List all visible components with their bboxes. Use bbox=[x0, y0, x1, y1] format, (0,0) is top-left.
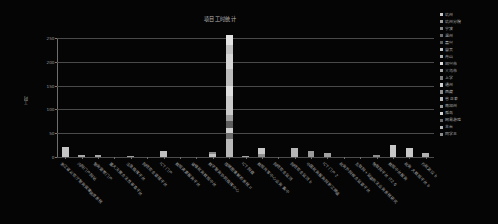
bar-column[interactable] bbox=[127, 156, 134, 157]
x-axis-tick-mark bbox=[180, 157, 181, 159]
bar-segment bbox=[373, 155, 380, 157]
x-axis-tick-mark bbox=[131, 157, 132, 159]
legend-item-label: 宁波 bbox=[445, 27, 453, 31]
legend-swatch-icon bbox=[440, 97, 443, 100]
legend-item[interactable]: 舟山 bbox=[440, 53, 498, 60]
bar-column[interactable] bbox=[78, 155, 85, 157]
y-axis-tick-mark bbox=[55, 157, 57, 158]
chart-legend: 杭州杭州分院宁波温州嘉兴自贡舟山绍兴市义乌市上学通州西藏省 正泰南加州孤岛网易游… bbox=[440, 11, 498, 138]
x-axis-tick-mark bbox=[393, 157, 394, 159]
legend-swatch-icon bbox=[440, 119, 443, 122]
legend-item[interactable]: 同学王 bbox=[440, 131, 498, 138]
x-axis-tick-mark bbox=[426, 157, 427, 159]
legend-item[interactable]: 嘉兴 bbox=[440, 39, 498, 46]
legend-item[interactable]: 绍兴市 bbox=[440, 60, 498, 67]
x-axis-tick-mark bbox=[213, 157, 214, 159]
legend-swatch-icon bbox=[440, 62, 443, 65]
legend-item[interactable]: 杭州分院 bbox=[440, 18, 498, 25]
bar-column[interactable] bbox=[242, 156, 249, 157]
legend-swatch-icon bbox=[440, 34, 443, 37]
bar-column[interactable] bbox=[373, 155, 380, 157]
legend-swatch-icon bbox=[440, 13, 443, 16]
legend-swatch-icon bbox=[440, 41, 443, 44]
legend-item-label: 同学王 bbox=[445, 132, 457, 136]
legend-swatch-icon bbox=[440, 90, 443, 93]
bar-column[interactable] bbox=[324, 153, 331, 157]
legend-swatch-icon bbox=[440, 133, 443, 136]
x-axis-tick-mark bbox=[82, 157, 83, 159]
legend-item-label: 上学 bbox=[445, 76, 453, 80]
y-axis-tick-label: 150 bbox=[47, 83, 55, 88]
bar-column[interactable] bbox=[308, 151, 315, 157]
bar-segment bbox=[324, 153, 331, 157]
bar-segment bbox=[242, 156, 249, 157]
x-axis-tick-mark bbox=[246, 157, 247, 159]
legend-swatch-icon bbox=[440, 20, 443, 23]
legend-item-label: 温州 bbox=[445, 34, 453, 38]
bar-column[interactable] bbox=[95, 155, 102, 157]
bar-segment bbox=[95, 155, 102, 157]
y-axis-tick-label: 250 bbox=[47, 36, 55, 41]
y-axis-tick-label: 50 bbox=[49, 131, 54, 136]
x-axis-tick-mark bbox=[295, 157, 296, 159]
legend-item-label: 嘉兴 bbox=[445, 41, 453, 45]
legend-item[interactable]: 宁波 bbox=[440, 25, 498, 32]
legend-item[interactable]: 通州 bbox=[440, 81, 498, 88]
bar-column[interactable] bbox=[422, 153, 429, 157]
bar-segment bbox=[226, 96, 233, 115]
y-axis-title: 工时 bbox=[24, 96, 30, 105]
bar-column[interactable] bbox=[390, 145, 397, 157]
legend-item-label: 绍兴市 bbox=[445, 62, 457, 66]
legend-item-label: 西藏 bbox=[445, 90, 453, 94]
legend-item[interactable]: 省 正泰 bbox=[440, 96, 498, 103]
legend-item-label: 孤岛 bbox=[445, 111, 453, 115]
bar-segment bbox=[226, 139, 233, 157]
legend-item[interactable]: 孤岛 bbox=[440, 110, 498, 117]
bar-segment bbox=[390, 145, 397, 157]
bar-column[interactable] bbox=[258, 148, 265, 157]
bar-column[interactable] bbox=[62, 147, 69, 157]
bar-segment bbox=[406, 148, 413, 157]
plot-area: 250200150100500 bbox=[57, 38, 434, 158]
bar-segment bbox=[422, 153, 429, 157]
x-axis-tick-mark bbox=[311, 157, 312, 159]
bar-segment bbox=[226, 86, 233, 96]
legend-item[interactable]: 网易游戏 bbox=[440, 117, 498, 124]
x-axis-tick-label: ICT 门户 bbox=[158, 160, 174, 176]
bar-layer bbox=[57, 38, 434, 157]
legend-item[interactable]: 丰台 bbox=[440, 124, 498, 131]
bar-segment bbox=[78, 155, 85, 157]
legend-item-label: 丰台 bbox=[445, 125, 453, 129]
x-axis-tick-mark bbox=[229, 157, 230, 159]
legend-item[interactable]: 自贡 bbox=[440, 46, 498, 53]
x-axis-tick-mark bbox=[327, 157, 328, 159]
chart-title: 项目工时统计 bbox=[0, 15, 440, 22]
bar-column[interactable] bbox=[406, 148, 413, 157]
legend-item[interactable]: 上学 bbox=[440, 74, 498, 81]
legend-item[interactable]: 温州 bbox=[440, 32, 498, 39]
x-axis-tick-mark bbox=[147, 157, 148, 159]
x-axis-tick-mark bbox=[344, 157, 345, 159]
legend-item[interactable]: 义乌市 bbox=[440, 67, 498, 74]
bar-segment bbox=[226, 121, 233, 129]
legend-item[interactable]: 杭州 bbox=[440, 11, 498, 18]
bar-column[interactable] bbox=[226, 35, 233, 157]
bar-segment bbox=[308, 151, 315, 157]
x-axis-label-layer: 浙江省公安厅警务保障信息系统内网门户网站警务督察门户重大决策合法性审查平台应急指… bbox=[57, 160, 434, 220]
x-axis-tick-mark bbox=[377, 157, 378, 159]
legend-item-label: 杭州分院 bbox=[445, 20, 461, 24]
bar-column[interactable] bbox=[160, 151, 167, 157]
legend-item[interactable]: 西藏 bbox=[440, 89, 498, 96]
legend-swatch-icon bbox=[440, 83, 443, 86]
legend-swatch-icon bbox=[440, 27, 443, 30]
legend-item[interactable]: 南加州 bbox=[440, 103, 498, 110]
legend-swatch-icon bbox=[440, 126, 443, 129]
bar-column[interactable] bbox=[209, 152, 216, 157]
bar-column[interactable] bbox=[291, 148, 298, 157]
legend-item-label: 自贡 bbox=[445, 48, 453, 52]
x-axis-tick-mark bbox=[360, 157, 361, 159]
legend-item-label: 杭州 bbox=[445, 13, 453, 17]
legend-swatch-icon bbox=[440, 69, 443, 72]
legend-item-label: 网易游戏 bbox=[445, 118, 461, 122]
bar-segment bbox=[160, 151, 167, 157]
